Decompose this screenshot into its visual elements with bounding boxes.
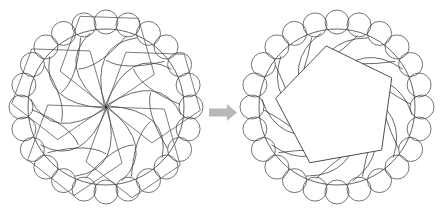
ring-circle (303, 13, 327, 37)
ring-circle (12, 117, 36, 141)
ring-circle (9, 95, 33, 119)
ring-circle (243, 117, 267, 141)
ring-circle (325, 180, 349, 204)
diagram-canvas (0, 0, 447, 222)
ring-circle (240, 95, 264, 119)
ring-circle (176, 73, 200, 97)
ring-circle (325, 10, 349, 34)
ring-circle (410, 95, 434, 119)
ring-circle (116, 177, 140, 201)
left-center-point (105, 106, 108, 109)
ring-circle (407, 73, 431, 97)
ring-circle (347, 177, 371, 201)
ring-circle (94, 10, 118, 34)
